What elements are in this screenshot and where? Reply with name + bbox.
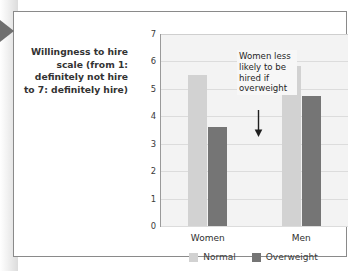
y-axis-tick-label: 5: [134, 84, 156, 94]
bar-women-normal: [188, 75, 207, 226]
y-axis-tick-label: 3: [134, 139, 156, 149]
y-axis-caption: Willingness to hire scale (from 1: defin…: [22, 46, 128, 96]
figure-card: Willingness to hire scale (from 1: defin…: [13, 11, 347, 257]
y-axis-tick-label: 4: [134, 111, 156, 121]
gridline: [161, 226, 348, 227]
x-axis-tick-label: Women: [191, 233, 225, 243]
y-axis-tick-labels: 01234567: [134, 34, 156, 226]
down-arrow-icon: [254, 110, 263, 138]
y-axis-tick-label: 6: [134, 56, 156, 66]
x-axis-tick-label: Men: [292, 233, 311, 243]
legend-item-normal: Normal: [189, 252, 236, 262]
left-triangle-marker-icon: [0, 20, 14, 42]
bar-chart: 01234567 WomenMen Women less likely to b…: [134, 28, 350, 263]
legend-item-overweight: Overweight: [252, 252, 318, 262]
annotation-callout: Women less likely to be hired if overwei…: [237, 50, 297, 95]
y-axis-tick-label: 2: [134, 166, 156, 176]
chart-legend: NormalOverweight: [160, 252, 347, 262]
legend-swatch-overweight-icon: [252, 253, 261, 262]
bar-women-overweight: [208, 127, 227, 226]
legend-swatch-normal-icon: [189, 253, 198, 262]
plot-area: WomenMen Women less likely to be hired i…: [160, 34, 348, 227]
bar-men-overweight: [302, 96, 321, 226]
y-axis-tick-label: 1: [134, 194, 156, 204]
legend-item-label: Normal: [203, 252, 236, 262]
legend-item-label: Overweight: [266, 252, 318, 262]
y-axis-tick-label: 7: [134, 29, 156, 39]
y-axis-tick-label: 0: [134, 221, 156, 231]
gridline: [161, 34, 348, 35]
